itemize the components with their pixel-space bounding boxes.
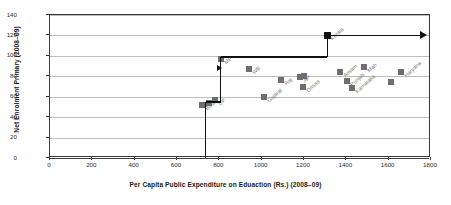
x-tick-label: 1200 [288,161,318,168]
chart-figure: Net Enrolment Primary (2008–09) 02040608… [0,0,451,205]
y-tick-label: 60 [0,92,17,99]
gridline [50,15,429,16]
annotation-segment [206,101,221,102]
x-tick-label: 1600 [373,161,403,168]
plot-area: BiharUPMPWBGujaratRajAPOrissaAssamPunjab… [49,14,430,157]
data-point-label: Raj [283,77,293,87]
x-tick-label: 600 [161,161,191,168]
data-point-label: WB [251,65,261,75]
y-tick-label: 120 [0,31,17,38]
x-tick-mark [430,157,431,160]
annotation-segment [220,57,221,102]
x-tick-label: 200 [76,161,106,168]
data-point-label: Mah [366,62,378,73]
y-tick-label: 80 [0,72,17,79]
annotation-segment [327,35,328,56]
gridline [50,138,429,139]
y-tick-label: 40 [0,113,17,120]
pointer-triangle-icon [217,65,222,71]
data-point-label: Gujarat [266,87,283,103]
x-axis-title: Per Capita Public Expenditure on Eduacti… [0,181,451,188]
y-tick-label: 100 [0,51,17,58]
annotation-segment [205,102,206,158]
y-tick-label: 140 [0,11,17,18]
annotation-segment [327,35,420,36]
y-tick-label: 20 [0,133,17,140]
annotation-segment [221,56,328,57]
x-tick-label: 1000 [246,161,276,168]
gridline [50,158,429,159]
x-tick-label: 1800 [415,161,445,168]
x-tick-label: 800 [203,161,233,168]
gridline [50,97,429,98]
y-tick-label: 0 [0,154,17,161]
arrow-head-icon [420,31,427,39]
data-point [388,79,394,85]
x-tick-label: 400 [119,161,149,168]
x-tick-label: 0 [34,161,64,168]
x-tick-label: 1400 [330,161,360,168]
gridline [50,117,429,118]
